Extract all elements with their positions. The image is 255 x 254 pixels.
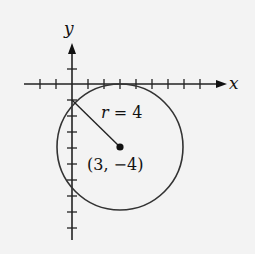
radius-label-value: = 4 <box>109 103 143 122</box>
y-axis-label: y <box>63 18 74 38</box>
coordinate-plane: x y r = 4 (3, −4) <box>0 0 255 254</box>
diagram: x y r = 4 (3, −4) <box>0 0 255 254</box>
y-axis-arrow-icon <box>68 43 76 54</box>
radius-label: r = 4 <box>101 103 142 122</box>
x-axis-label: x <box>229 73 239 93</box>
center-label: (3, −4) <box>87 155 143 174</box>
x-axis-arrow-icon <box>216 80 227 88</box>
center-point <box>116 143 123 150</box>
